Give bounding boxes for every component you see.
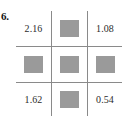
number-grid-table: 2.16 1.08 1.62 0.54: [16, 11, 124, 118]
grid-cell-value: 0.54: [96, 94, 114, 105]
grid-cell-value: 1.08: [96, 23, 114, 34]
blank-answer-square: [60, 91, 79, 108]
grid-cell-r2c2[interactable]: [52, 47, 88, 83]
grid-cell-r1c1[interactable]: 2.16: [16, 11, 52, 47]
blank-answer-square: [96, 56, 115, 73]
grid-cell-r1c3[interactable]: 1.08: [88, 11, 122, 47]
grid-cell-value: 2.16: [25, 23, 43, 34]
grid-cell-value: 1.62: [25, 94, 43, 105]
problem-container: 6. 2.16 1.08 1.62 0.54: [0, 0, 131, 125]
grid-cell-r1c2[interactable]: [52, 11, 88, 47]
blank-answer-square: [60, 56, 79, 73]
grid-cell-r3c3[interactable]: 0.54: [88, 83, 122, 116]
grid-cell-r2c1[interactable]: [16, 47, 52, 83]
grid-cell-r3c2[interactable]: [52, 83, 88, 116]
grid-cell-r2c3[interactable]: [88, 47, 122, 83]
blank-answer-square: [24, 56, 43, 73]
problem-number-label: 6.: [1, 9, 15, 23]
grid-cell-r3c1[interactable]: 1.62: [16, 83, 52, 116]
blank-answer-square: [60, 20, 79, 37]
